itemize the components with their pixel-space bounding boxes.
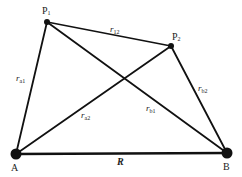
node-p2 [168,43,174,49]
label-ra1-sub: a1 [20,78,26,84]
label-p1-sub: 1 [48,10,51,16]
edge-p1-p2 [47,22,171,46]
edge-p1-a [16,22,47,154]
label-b: B [223,162,230,172]
label-r12-sub: 12 [114,29,120,35]
node-b [222,148,233,159]
label-a: A [11,163,18,173]
label-p1: P1 [42,6,51,16]
label-rb2-sub: b2 [202,88,208,94]
label-ra1: ra1 [16,74,25,84]
label-r12: r12 [110,25,120,35]
edge-p2-a [16,46,171,154]
edge-p2-b [171,46,227,153]
label-R: R [117,157,124,167]
node-a [11,149,22,160]
label-p2: P2 [172,32,181,42]
label-p2-sub: 2 [178,36,181,42]
label-rb2: rb2 [198,84,208,94]
label-rb1: rb1 [146,104,156,114]
edge-a-b [16,153,227,154]
node-p1 [44,19,50,25]
label-ra2: ra2 [81,111,90,121]
label-ra2-sub: a2 [85,115,91,121]
label-rb1-sub: b1 [150,108,156,114]
